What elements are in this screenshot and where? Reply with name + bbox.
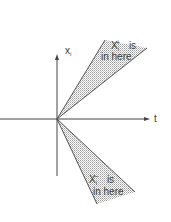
horizontal-axis-label: t (154, 114, 157, 124)
vertical-axis-label: xi (65, 46, 71, 59)
lower-cone-is: is (107, 174, 114, 185)
lower-cone-sup: − (94, 173, 98, 180)
lower-cone-label-line2: in here (93, 187, 124, 197)
cone-diagram (0, 0, 171, 222)
upper-cone-sup: + (116, 39, 120, 46)
upper-cone-is: is (129, 40, 136, 51)
vertical-axis-sub: i (70, 51, 71, 57)
t-axis-arrow-icon (144, 117, 150, 121)
x-axis-arrow-icon (55, 54, 59, 60)
upper-cone-label-line2: in here (101, 52, 132, 62)
